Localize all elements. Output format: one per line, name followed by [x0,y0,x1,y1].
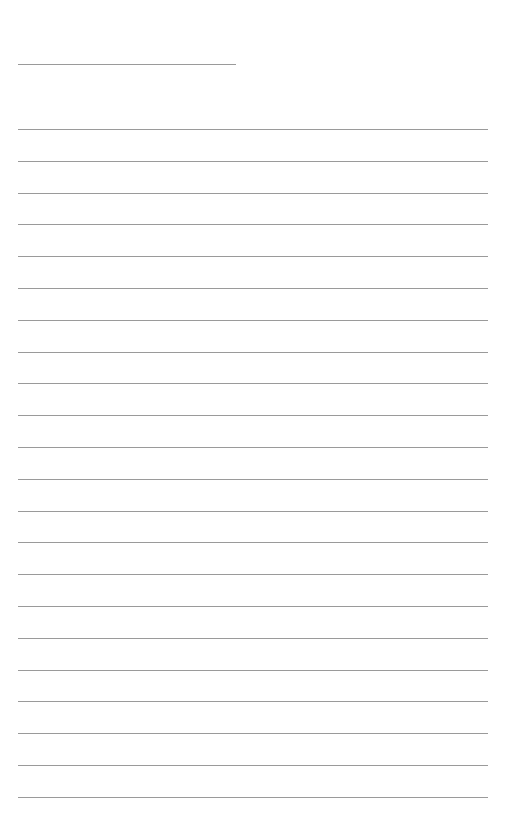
write-line [18,320,488,321]
write-line [18,542,488,543]
write-line [18,733,488,734]
write-line [18,161,488,162]
write-line [18,415,488,416]
write-line [18,383,488,384]
write-line [18,670,488,671]
write-line [18,193,488,194]
write-line [18,256,488,257]
write-line [18,606,488,607]
write-line [18,511,488,512]
header-write-line [18,64,236,65]
write-line [18,797,488,798]
write-line [18,224,488,225]
write-line [18,447,488,448]
write-line [18,574,488,575]
write-line [18,765,488,766]
write-line [18,129,488,130]
write-line [18,288,488,289]
write-line [18,479,488,480]
write-line [18,638,488,639]
write-line [18,701,488,702]
write-line [18,352,488,353]
